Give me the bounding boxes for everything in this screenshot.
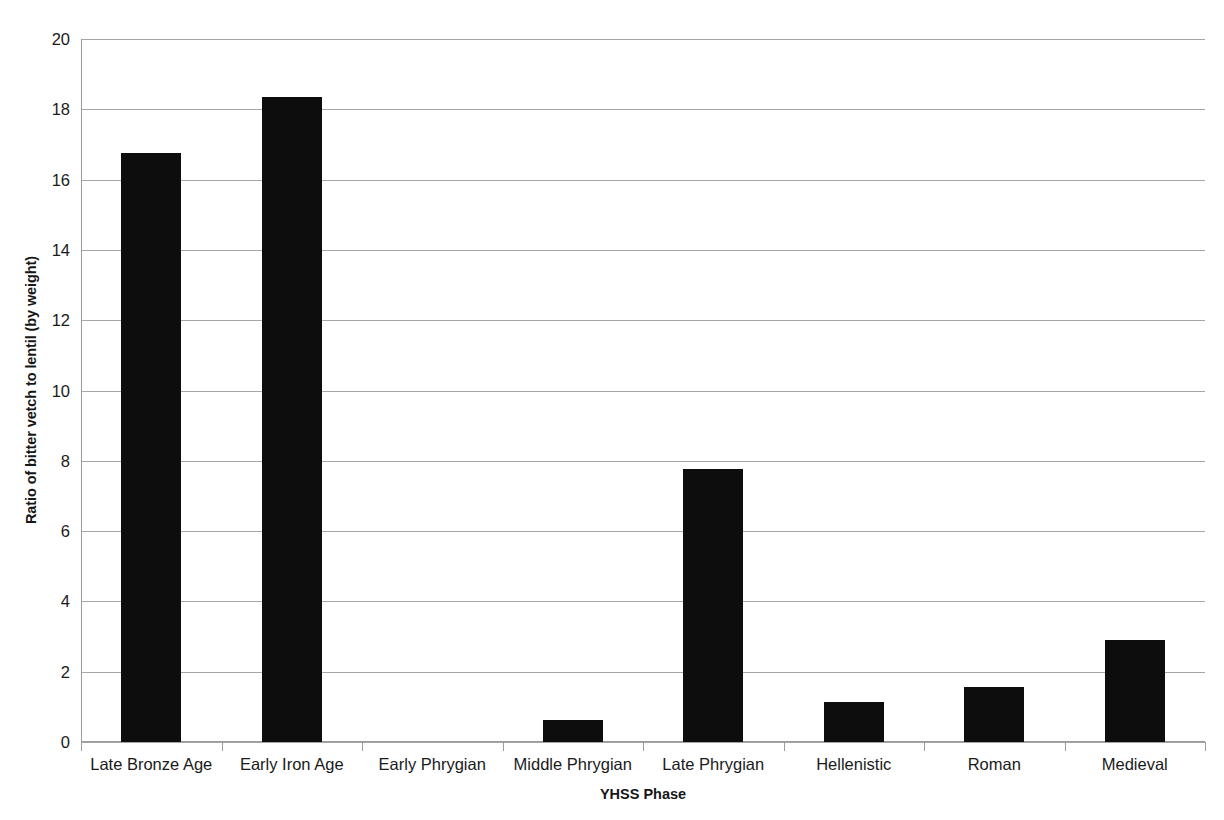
bar[interactable] [1105,640,1165,742]
y-tick-label: 14 [52,240,70,259]
y-tick-label: 0 [61,733,70,752]
category-tick [1205,742,1206,751]
bar[interactable] [543,720,603,742]
x-tick-label: Roman [924,755,1065,781]
category-tick [222,742,223,751]
y-tick-label: 20 [52,30,70,49]
bar-slot [362,39,503,742]
bar-slot [1065,39,1206,742]
category-tick [643,742,644,751]
x-tick-label: Early Phrygian [362,755,503,781]
category-tick [503,742,504,751]
bar[interactable] [824,702,884,742]
x-axis-ticks: Late Bronze AgeEarly Iron AgeEarly Phryg… [81,755,1205,781]
bar[interactable] [964,687,1024,742]
bar-slot [81,39,222,742]
y-tick-label: 10 [52,381,70,400]
category-tick [362,742,363,751]
category-tick [81,742,82,751]
category-tick [924,742,925,751]
x-axis-title: YHSS Phase [81,786,1205,802]
y-axis-ticks: 20181614121086420 [34,39,70,742]
bar-slot [222,39,363,742]
bar-slot [643,39,784,742]
x-tick-label: Medieval [1065,755,1206,781]
category-tick [1065,742,1066,751]
plot-area [81,39,1205,742]
bars-layer [81,39,1205,742]
x-tick-label: Late Bronze Age [81,755,222,781]
bar[interactable] [121,153,181,742]
category-ticks [81,742,1205,751]
bar-slot [924,39,1065,742]
x-tick-label: Early Iron Age [222,755,363,781]
y-tick-label: 4 [61,592,70,611]
y-tick-label: 6 [61,522,70,541]
bar[interactable] [683,469,743,742]
y-tick-label: 8 [61,451,70,470]
y-tick-label: 18 [52,100,70,119]
y-tick-label: 12 [52,311,70,330]
x-tick-label: Middle Phrygian [503,755,644,781]
x-tick-label: Hellenistic [784,755,925,781]
category-tick [784,742,785,751]
bar-chart: Ratio of bitter vetch to lentil (by weig… [0,0,1224,820]
y-tick-label: 2 [61,662,70,681]
bar[interactable] [262,97,322,742]
bar-slot [784,39,925,742]
y-tick-label: 16 [52,170,70,189]
bar-slot [503,39,644,742]
x-tick-label: Late Phrygian [643,755,784,781]
